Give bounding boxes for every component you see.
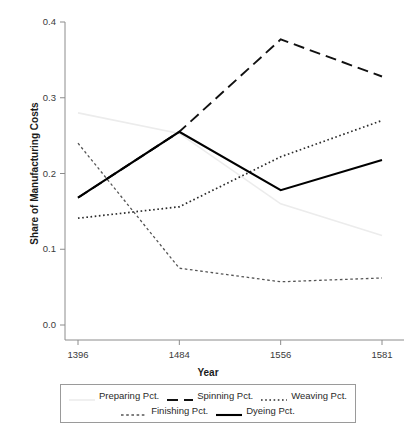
y-axis-ticks (60, 22, 65, 325)
x-tick-label: 1484 (156, 349, 202, 360)
legend-line-swatch (216, 406, 242, 416)
series-line-finishing-pct (78, 143, 382, 282)
legend-label: Spinning Pct. (197, 390, 253, 401)
legend-entry-dyeing-pct: Dyeing Pct. (216, 405, 295, 416)
x-axis-title: Year (0, 367, 416, 378)
y-tick-label: 0.4 (26, 16, 56, 27)
legend-label: Weaving Pct. (291, 390, 347, 401)
series-line-dyeing-pct (78, 132, 382, 198)
chart-figure: 0.00.10.20.30.4 1396148415561581 Share o… (0, 0, 416, 434)
legend-label: Preparing Pct. (99, 390, 159, 401)
legend-line-swatch (167, 391, 193, 401)
legend-entry-finishing-pct: Finishing Pct. (121, 405, 208, 416)
legend-line-swatch (121, 406, 147, 416)
legend-entry-weaving-pct: Weaving Pct. (261, 390, 347, 401)
y-axis-title: Share of Manufacturing Costs (29, 74, 40, 274)
x-tick-label: 1581 (359, 349, 405, 360)
legend-label: Finishing Pct. (151, 405, 208, 416)
legend-line-swatch (69, 391, 95, 401)
legend-entry-spinning-pct: Spinning Pct. (167, 390, 253, 401)
chart-legend: Preparing Pct.Spinning Pct.Weaving Pct. … (60, 384, 356, 423)
legend-label: Dyeing Pct. (246, 405, 295, 416)
legend-line-swatch (261, 391, 287, 401)
x-tick-label: 1396 (55, 349, 101, 360)
axis-lines (65, 22, 404, 340)
legend-row: Preparing Pct.Spinning Pct.Weaving Pct. (63, 388, 353, 403)
x-tick-label: 1556 (258, 349, 304, 360)
y-tick-label: 0.0 (26, 319, 56, 330)
data-series-group (78, 39, 382, 281)
x-axis-ticks (78, 340, 382, 345)
legend-entry-preparing-pct: Preparing Pct. (69, 390, 159, 401)
legend-row: Finishing Pct.Dyeing Pct. (63, 403, 353, 418)
